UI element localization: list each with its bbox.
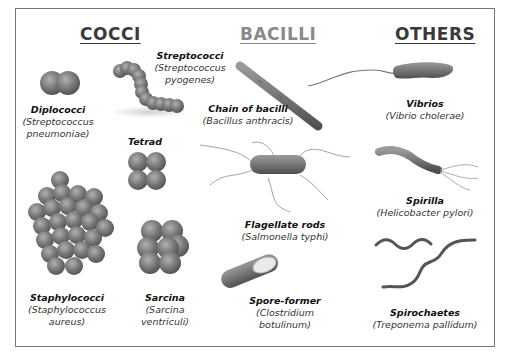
label-diplococci: Diplococci (Streptococcus pneumoniae) (18, 104, 98, 140)
flagellate-rod-illustration (200, 142, 350, 212)
label-spore-former-name: Spore-former (245, 295, 325, 307)
label-streptococci-species-1: (Streptococcus (150, 62, 230, 74)
label-staphylococci-species-1: (Staphylococcus (22, 304, 112, 316)
sarcina-illustration (137, 220, 189, 274)
label-streptococci-species-2: pyogenes) (150, 74, 230, 86)
label-flagellate-rods-name: Flagellate rods (235, 219, 335, 231)
label-spirilla-name: Spirilla (370, 195, 480, 207)
label-streptococci: Streptococci (Streptococcus pyogenes) (150, 50, 230, 86)
label-spirilla-species: (Helicobacter pylori) (370, 207, 480, 219)
spirochaetes-illustration (376, 240, 475, 288)
label-spirochaetes-species: (Treponema pallidum) (370, 319, 480, 331)
label-spore-former: Spore-former (Clostridium botulinum) (245, 295, 325, 331)
label-vibrios-name: Vibrios (375, 98, 475, 110)
diplococci-illustration (40, 71, 80, 95)
label-flagellate-rods: Flagellate rods (Salmonella typhi) (235, 219, 335, 243)
label-tetrad: Tetrad (110, 136, 180, 148)
label-sarcina-species-1: (Sarcina (130, 304, 200, 316)
label-sarcina-species-2: ventriculi) (130, 316, 200, 328)
label-tetrad-name: Tetrad (110, 136, 180, 148)
label-spore-former-species-1: (Clostridium (245, 307, 325, 319)
label-diplococci-species-2: pneumoniae) (18, 128, 98, 140)
label-chain-of-bacilli-species: (Bacillus anthracis) (198, 115, 298, 127)
label-spirilla: Spirilla (Helicobacter pylori) (370, 195, 480, 219)
label-spore-former-species-2: botulinum) (245, 319, 325, 331)
label-diplococci-species-1: (Streptococcus (18, 116, 98, 128)
label-streptococci-name: Streptococci (150, 50, 230, 62)
label-staphylococci-name: Staphylococci (22, 292, 112, 304)
label-chain-of-bacilli-name: Chain of bacilli (198, 103, 298, 115)
staphylococci-illustration (28, 171, 114, 275)
label-spirochaetes: Spirochaetes (Treponema pallidum) (370, 307, 480, 331)
tetrad-illustration (128, 152, 166, 190)
label-vibrios: Vibrios (Vibrio cholerae) (375, 98, 475, 122)
label-chain-of-bacilli: Chain of bacilli (Bacillus anthracis) (198, 103, 298, 127)
label-diplococci-name: Diplococci (18, 104, 98, 116)
spirilla-illustration (379, 150, 478, 190)
spore-former-illustration (218, 251, 280, 290)
vibrio-illustration (308, 62, 453, 86)
label-sarcina-name: Sarcina (130, 292, 200, 304)
label-spirochaetes-name: Spirochaetes (370, 307, 480, 319)
label-vibrios-species: (Vibrio cholerae) (375, 110, 475, 122)
label-staphylococci: Staphylococci (Staphylococcus aureus) (22, 292, 112, 328)
label-staphylococci-species-2: aureus) (22, 316, 112, 328)
label-flagellate-rods-species: (Salmonella typhi) (235, 231, 335, 243)
label-sarcina: Sarcina (Sarcina ventriculi) (130, 292, 200, 328)
